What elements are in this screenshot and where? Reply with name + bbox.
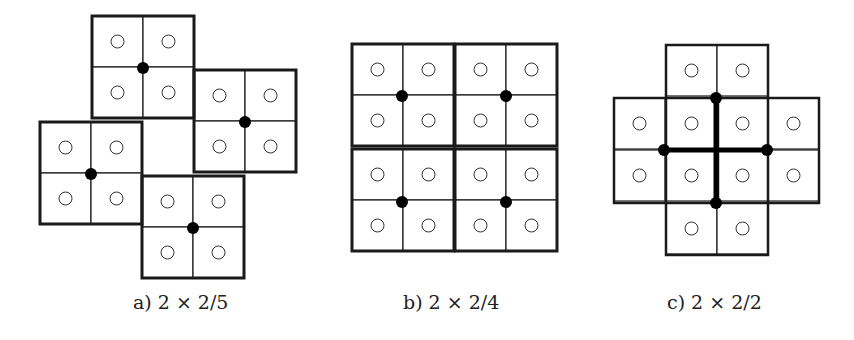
grid-cell [455, 149, 506, 200]
grid-cell [717, 45, 768, 96]
grid-cell [352, 149, 403, 200]
caption-c: c) 2 × 2/2 [667, 291, 762, 313]
filled-dot-icon [239, 116, 251, 128]
grid-cell [455, 95, 506, 146]
filled-dot-icon [85, 168, 97, 180]
caption-a: a) 2 × 2/5 [133, 291, 228, 313]
filled-dot-icon [500, 90, 512, 102]
grid-cell [40, 173, 91, 224]
grid-cell [614, 150, 665, 201]
grid-cell [614, 98, 665, 149]
diagram-c-2x2-2 [614, 45, 819, 255]
grid-cell [143, 16, 194, 67]
grid-cell [142, 227, 193, 278]
grid-cell [506, 149, 557, 200]
grid-cell [194, 121, 245, 172]
filled-dot-icon [137, 62, 149, 74]
grid-cell [403, 200, 454, 251]
grid-cell [40, 122, 91, 173]
diagram-a-2x2-5 [40, 16, 296, 278]
grid-cell [194, 70, 245, 121]
grid-cell [92, 67, 143, 118]
grid-cell [768, 150, 819, 201]
grid-cell [455, 44, 506, 95]
diagram-b-2x2-4 [352, 44, 557, 251]
grid-cell [666, 203, 717, 254]
grid-cell [245, 121, 296, 172]
grid-cell [768, 98, 819, 149]
grid-cell [666, 150, 717, 201]
grid-cell [193, 176, 244, 227]
filled-dot-icon [396, 90, 408, 102]
grid-cell [506, 95, 557, 146]
grid-cell [506, 200, 557, 251]
grid-cell [717, 203, 768, 254]
filled-dot-icon [187, 222, 199, 234]
filled-dot-icon [396, 196, 408, 208]
grid-cell [193, 227, 244, 278]
grid-cell [717, 98, 768, 149]
filled-dot-icon [658, 144, 670, 156]
grid-cell [403, 95, 454, 146]
grid-cell [455, 200, 506, 251]
grid-cell [91, 122, 142, 173]
grid-cell [352, 200, 403, 251]
filled-dot-icon [710, 92, 722, 104]
figure-canvas [0, 0, 854, 340]
grid-cell [91, 173, 142, 224]
grid-cell [245, 70, 296, 121]
grid-cell [403, 44, 454, 95]
grid-cell [666, 45, 717, 96]
filled-dot-icon [500, 196, 512, 208]
grid-cell [92, 16, 143, 67]
grid-cell [666, 98, 717, 149]
grid-cell [352, 44, 403, 95]
grid-cell [352, 95, 403, 146]
filled-dot-icon [710, 197, 722, 209]
grid-cell [506, 44, 557, 95]
grid-cell [403, 149, 454, 200]
filled-dot-icon [761, 144, 773, 156]
caption-b: b) 2 × 2/4 [403, 291, 499, 313]
grid-cell [143, 67, 194, 118]
grid-cell [717, 150, 768, 201]
grid-cell [142, 176, 193, 227]
